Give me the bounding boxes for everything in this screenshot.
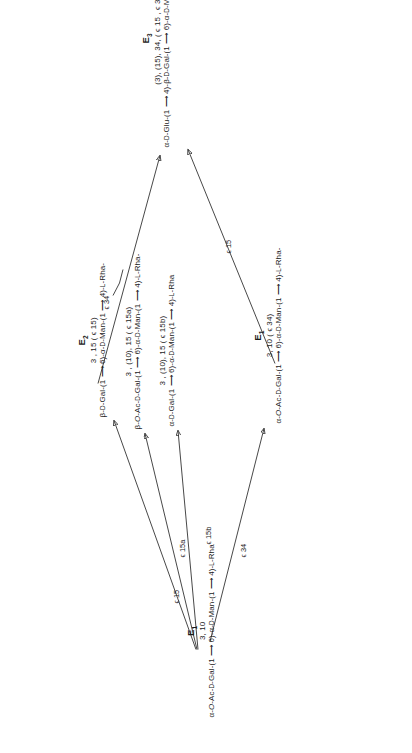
node-e2-b-superscript: 3 , (10), 15 ( ϵ 15a): [124, 253, 133, 429]
node-e2-a-superscript: 3 , 15 ( ϵ 15): [89, 262, 98, 417]
arrow-label-e34-upper: ϵ 34: [102, 295, 111, 309]
label-hook-e34: [113, 269, 123, 295]
node-e2-c: 3 , (10), 15 ( ϵ 15b) α-D-Gal-(1 ⟶ 6)-α-…: [158, 274, 176, 426]
arrow-label-e15: ϵ 15: [172, 589, 181, 603]
node-e2-a-formula: β-D-Gal-(1 ⟶ 6)-α-D-Man-(1 ⟶ 4)-L-Rha-: [98, 262, 107, 417]
node-e1-right: E1 3, 10 ( ϵ 34) α-O-Ac-D-Gal-(1 ⟶ 6)-α-…: [252, 247, 283, 423]
arrow-label-e15a: ϵ 15a: [178, 539, 187, 557]
node-e2-a-label: E2: [76, 262, 89, 417]
node-e3-formula: α-D-Glu-(1 ⟶ 4)-β-D-Gal-(1 ⟶ 6)-α-D-Man-…: [162, 0, 171, 147]
arrow-label-e15-upper: ϵ 15: [224, 239, 233, 253]
node-e3-label: E3: [140, 0, 153, 147]
node-e1-right-formula: α-O-Ac-D-Gal-(1 ⟶ 6)-α-D-Man-(1 ⟶ 4)-L-R…: [274, 247, 283, 423]
arrow-label-e34-lower: ϵ 34: [239, 543, 248, 557]
node-e1-bottom-formula: α-O-Ac-D-Gal-(1 ⟶ 6)-α-D-Man-(1 ⟶ 4)-L-R…: [207, 544, 216, 717]
arrow-e1-to-e2a: [114, 420, 196, 649]
node-e3-superscript: (3), (15), 34, ( ϵ 15 , ϵ 34): [153, 0, 162, 147]
diagram-canvas: E1 3, 10 α-O-Ac-D-Gal-(1 ⟶ 6)-α-D-Man-(1…: [0, 0, 412, 753]
node-e1-right-superscript: 3, 10 ( ϵ 34): [265, 247, 274, 423]
node-e2-c-formula: α-D-Gal-(1 ⟶ 6)-α-D-Man-(1 ⟶ 4)-L-Rha: [167, 274, 176, 426]
node-e2-a: E2 3 , 15 ( ϵ 15) β-D-Gal-(1 ⟶ 6)-α-D-Ma…: [76, 262, 107, 417]
diagram-page: E1 3, 10 α-O-Ac-D-Gal-(1 ⟶ 6)-α-D-Man-(1…: [0, 0, 412, 753]
node-e2-b-formula: β-O-Ac-D-Gal-(1 ⟶ 6)-α-D-Man-(1 ⟶ 4)-L-R…: [133, 253, 142, 429]
arrow-e1-to-e1right: [210, 428, 264, 641]
node-e3: E3 (3), (15), 34, ( ϵ 15 , ϵ 34) α-D-Glu…: [140, 0, 171, 147]
node-e2-c-superscript: 3 , (10), 15 ( ϵ 15b): [158, 274, 167, 426]
node-e2-b: 3 , (10), 15 ( ϵ 15a) β-O-Ac-D-Gal-(1 ⟶ …: [124, 253, 142, 429]
node-e1-right-label: E1: [252, 247, 265, 423]
node-e1-bottom-superscript: 3, 10: [198, 544, 207, 717]
node-e1-bottom: E1 3, 10 α-O-Ac-D-Gal-(1 ⟶ 6)-α-D-Man-(1…: [185, 544, 216, 717]
node-e1-bottom-label: E1: [185, 544, 198, 717]
arrow-label-e15b: ϵ 15b: [204, 526, 213, 544]
